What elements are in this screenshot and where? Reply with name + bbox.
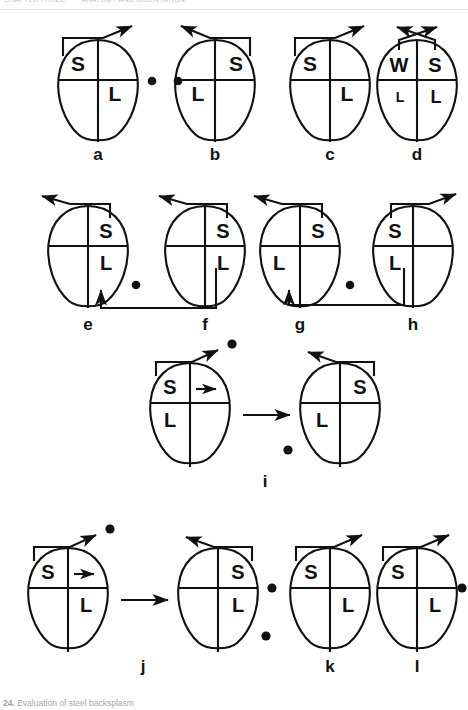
panel-group: S L a S L b S xyxy=(28,26,466,676)
panel-h-label-S: S xyxy=(388,220,401,242)
panel-g-label-L: L xyxy=(273,252,285,274)
panel-l-dot-right xyxy=(457,583,466,592)
panel-h-label-L: L xyxy=(389,252,401,274)
panel-c: S L c xyxy=(290,26,370,164)
panel-j-left-label-L: L xyxy=(80,594,92,616)
panel-k-label-S: S xyxy=(304,561,317,583)
panel-f-label-S: S xyxy=(216,220,229,242)
panel-k-caption: k xyxy=(325,657,335,676)
panel-h-caption: h xyxy=(408,315,418,334)
panel-a: S L a xyxy=(58,26,156,164)
panel-j-left-label-S: S xyxy=(41,561,54,583)
panel-g: S L g xyxy=(254,196,354,334)
panel-i-dot-lower-left xyxy=(283,445,292,454)
panel-k-label-L: L xyxy=(342,594,354,616)
panel-c-caption: c xyxy=(325,145,334,164)
panel-g-label-S: S xyxy=(311,220,324,242)
panel-k-dot-left xyxy=(267,583,276,592)
panel-j-right-label-L: L xyxy=(232,594,244,616)
panel-b-caption: b xyxy=(210,145,220,164)
panel-j-right: S L xyxy=(178,537,270,652)
panel-l-label-L: L xyxy=(429,594,441,616)
panel-l-caption: l xyxy=(415,657,420,676)
panel-f-label-L: L xyxy=(217,252,229,274)
panel-l: S L l xyxy=(377,535,466,676)
panel-i-left-label-S: S xyxy=(163,376,176,398)
panel-i-right: S L xyxy=(283,352,379,467)
panel-i: S L S L i xyxy=(150,339,380,491)
panel-b-label-S: S xyxy=(229,52,243,75)
panel-d: W S L L d xyxy=(377,27,457,164)
panel-a-caption: a xyxy=(93,145,103,164)
panel-a-label-L: L xyxy=(109,82,122,105)
figure-caption-text: Evaluation of steel backsplasm xyxy=(17,698,134,708)
figure-caption-number: 24. xyxy=(3,698,15,708)
panel-d-caption: d xyxy=(412,145,422,164)
panel-i-right-label-S: S xyxy=(353,376,366,398)
panel-g-caption: g xyxy=(295,315,305,334)
figure-canvas: S L a S L b S xyxy=(0,0,468,710)
panel-c-label-L: L xyxy=(341,82,354,105)
panel-e-label-L: L xyxy=(100,252,112,274)
panel-l-label-S: S xyxy=(391,561,404,583)
panel-a-label-S: S xyxy=(71,52,85,75)
panel-c-label-S: S xyxy=(303,52,317,75)
panel-i-left: S L xyxy=(150,339,236,467)
panel-e-label-S: S xyxy=(99,220,112,242)
panel-f-caption: f xyxy=(202,315,208,334)
panel-j-dot-arrow-tip xyxy=(105,524,114,533)
panel-j: S L S L j xyxy=(28,524,270,676)
panel-e: S L e xyxy=(42,196,140,334)
figure-caption: 24. Evaluation of steel backsplasm xyxy=(3,698,303,710)
panel-k: S L k xyxy=(267,535,369,676)
panel-j-right-label-S: S xyxy=(231,561,244,583)
panel-d-label-L-left: L xyxy=(396,89,405,105)
panel-d-label-S: S xyxy=(428,54,441,76)
panel-j-caption: j xyxy=(140,657,146,676)
panel-i-dot-arrow-tip xyxy=(227,339,236,348)
panel-b-dot-left xyxy=(174,77,183,86)
panel-a-dot-right xyxy=(148,77,157,86)
panel-f: S L f xyxy=(159,196,245,334)
panel-i-right-label-L: L xyxy=(316,409,328,431)
panel-g-dot-right xyxy=(346,281,355,290)
panel-b-label-L: L xyxy=(192,82,205,105)
panel-i-left-label-L: L xyxy=(164,409,176,431)
panel-j-dot-lower-right xyxy=(261,631,270,640)
figure-root: CHAPTER THREE · · · ANATOMY AND ORIENTAT… xyxy=(0,0,468,710)
panel-h: S L h xyxy=(373,194,456,334)
panel-b: S L b xyxy=(174,26,255,164)
panel-j-left: S L xyxy=(28,524,114,652)
panel-e-caption: e xyxy=(83,315,92,334)
panel-i-caption: i xyxy=(263,472,268,491)
panel-d-label-L-right: L xyxy=(431,87,442,107)
panel-d-label-W: W xyxy=(390,54,409,76)
panel-e-dot-right xyxy=(132,281,141,290)
